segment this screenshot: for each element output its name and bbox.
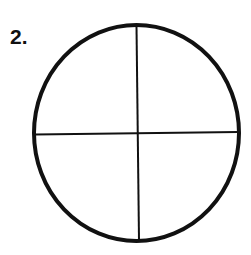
- horizontal-divider-line: [35, 132, 238, 135]
- quartered-circle-diagram: [0, 0, 251, 255]
